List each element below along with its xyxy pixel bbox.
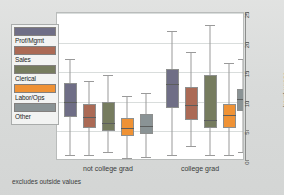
legend-label: Prof/Mgmt — [14, 36, 56, 45]
whisker-cap-upper — [238, 59, 243, 60]
box — [121, 118, 134, 136]
whisker-cap-lower — [224, 155, 234, 156]
legend: Prof/MgmtSalesClericalLabor/OpsOther — [11, 24, 59, 125]
box — [166, 69, 179, 108]
boxplot-sales — [185, 13, 198, 159]
median-line — [83, 117, 96, 118]
whisker-cap-lower — [122, 158, 132, 159]
whisker-cap-upper — [84, 81, 94, 82]
whisker-cap-upper — [122, 96, 132, 97]
boxplot-clerical — [102, 13, 115, 159]
boxplot-other — [237, 13, 244, 159]
whisker-cap-lower — [205, 155, 215, 156]
x-label-not-college-grad: not college grad — [62, 165, 154, 172]
y-axis-tick-label: 20 — [244, 41, 250, 48]
whisker-cap-lower — [141, 157, 151, 158]
y-axis-line — [245, 12, 246, 161]
whisker-cap-upper — [65, 59, 75, 60]
y-axis-tick-label: 25 — [244, 12, 250, 19]
whisker-cap-lower — [186, 146, 196, 147]
x-label-college-grad: college grad — [160, 165, 240, 172]
legend-swatch-icon — [14, 103, 56, 112]
whisker-cap-upper — [167, 31, 177, 32]
median-line — [121, 128, 134, 129]
box — [102, 102, 115, 132]
legend-item-labor-ops[interactable]: Labor/Ops — [14, 84, 56, 102]
legend-item-clerical[interactable]: Clerical — [14, 65, 56, 83]
x-axis-note: excludes outside values — [12, 178, 81, 185]
plot-area — [56, 12, 244, 160]
whisker-cap-upper — [186, 52, 196, 53]
legend-item-sales[interactable]: Sales — [14, 46, 56, 64]
whisker-cap-lower — [103, 152, 113, 153]
legend-label: Sales — [14, 55, 56, 64]
y-axis-tick-label: 10 — [244, 100, 250, 107]
boxplot-labor-ops — [223, 13, 236, 159]
legend-label: Labor/Ops — [14, 93, 56, 102]
median-line — [185, 105, 198, 106]
plot-inner — [57, 13, 243, 159]
chart-screenshot: 0510152025 hourly wage not college grad … — [0, 0, 284, 195]
whisker-cap-lower — [65, 155, 75, 156]
whisker-cap-upper — [224, 63, 234, 64]
y-axis-tick-label: 5 — [244, 132, 250, 135]
whisker-cap-lower — [167, 155, 177, 156]
box — [185, 87, 198, 120]
legend-swatch-icon — [14, 46, 56, 55]
legend-label: Other — [14, 112, 56, 121]
boxplot-prof-mgmt — [166, 13, 179, 159]
median-line — [102, 123, 115, 124]
y-axis-tick-label: 0 — [244, 161, 250, 164]
median-line — [140, 126, 153, 127]
median-line — [204, 120, 217, 121]
legend-swatch-icon — [14, 84, 56, 93]
boxplot-series-container — [57, 13, 243, 159]
box — [223, 104, 236, 128]
y-axis-title: hourly wage — [282, 72, 284, 107]
box — [140, 114, 153, 135]
figure-canvas: 0510152025 hourly wage not college grad … — [0, 0, 284, 195]
boxplot-clerical — [204, 13, 217, 159]
whisker-cap-upper — [103, 75, 113, 76]
median-line — [223, 115, 236, 116]
legend-label: Clerical — [14, 74, 56, 83]
boxplot-prof-mgmt — [64, 13, 77, 159]
y-axis-tick-label: 15 — [244, 71, 250, 78]
legend-swatch-icon — [14, 65, 56, 74]
median-line — [64, 102, 77, 103]
median-line — [166, 84, 179, 85]
boxplot-sales — [83, 13, 96, 159]
whisker-cap-lower — [238, 152, 243, 153]
boxplot-labor-ops — [121, 13, 134, 159]
whisker-cap-lower — [84, 155, 94, 156]
whisker-cap-upper — [205, 25, 215, 26]
median-line — [237, 99, 244, 100]
box — [64, 83, 77, 116]
legend-item-other[interactable]: Other — [14, 103, 56, 121]
boxplot-other — [140, 13, 153, 159]
legend-swatch-icon — [14, 27, 56, 36]
legend-item-prof-mgmt[interactable]: Prof/Mgmt — [14, 27, 56, 45]
whisker-cap-upper — [141, 93, 151, 94]
